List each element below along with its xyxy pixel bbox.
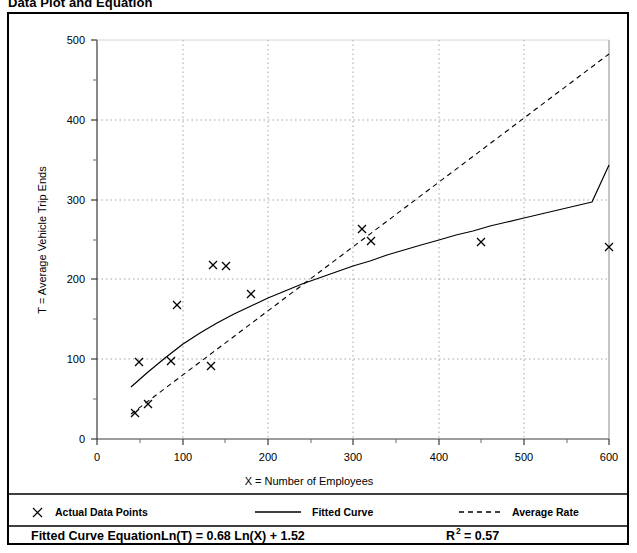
x-tick-label-600: 600 [600, 451, 618, 463]
page-title: Data Plot and Equation [8, 0, 152, 10]
x-tick-label-300: 300 [344, 451, 362, 463]
data-point [209, 261, 217, 269]
r-squared-value: = 0.57 [464, 529, 499, 543]
gridlines-vertical [183, 40, 524, 439]
x-tick-label-0: 0 [94, 451, 100, 463]
data-point [207, 362, 215, 370]
legend-label-fitted-curve: Fitted Curve [312, 506, 373, 518]
y-tick-label-100: 100 [67, 353, 85, 365]
legend-label-average-rate: Average Rate [512, 506, 579, 518]
r-squared-base: R [446, 529, 455, 543]
y-axis-title: T = Average Vehicle Trip Ends [36, 166, 48, 314]
data-point [247, 290, 255, 298]
y-tick-label-300: 300 [67, 194, 85, 206]
data-point [222, 262, 230, 270]
legend: Actual Data Points Fitted Curve Average … [33, 506, 579, 518]
fitted-curve-line [131, 165, 609, 387]
x-axis-title: X = Number of Employees [245, 475, 374, 487]
x-tick-label-500: 500 [515, 451, 533, 463]
average-rate-line [131, 54, 609, 414]
x-tick-label-200: 200 [259, 451, 277, 463]
y-tick-label-400: 400 [67, 114, 85, 126]
data-points-group [131, 225, 613, 417]
equation-expression: Ln(T) = 0.68 Ln(X) + 1.52 [161, 529, 305, 543]
x-tick-label-100: 100 [174, 451, 192, 463]
data-point [358, 225, 366, 233]
y-tick-label-0: 0 [79, 433, 85, 445]
data-point [477, 238, 485, 246]
x-axis-major-ticks [97, 439, 609, 445]
y-tick-label-200: 200 [67, 273, 85, 285]
y-tick-label-500: 500 [67, 34, 85, 46]
x-tick-label-400: 400 [430, 451, 448, 463]
data-point [167, 357, 175, 365]
equation-label: Fitted Curve Equation: [31, 529, 165, 543]
data-point [173, 301, 181, 309]
figure-frame: 500 400 300 200 100 0 0 100 200 300 400 … [7, 12, 629, 545]
legend-label-actual-data-points: Actual Data Points [55, 506, 148, 518]
legend-marker-x-icon [33, 508, 42, 517]
data-point [367, 237, 375, 245]
data-plot-chart: 500 400 300 200 100 0 0 100 200 300 400 … [9, 14, 627, 543]
equation-footer: Fitted Curve Equation: Ln(T) = 0.68 Ln(X… [31, 526, 499, 543]
r-squared-exponent: 2 [456, 526, 461, 536]
